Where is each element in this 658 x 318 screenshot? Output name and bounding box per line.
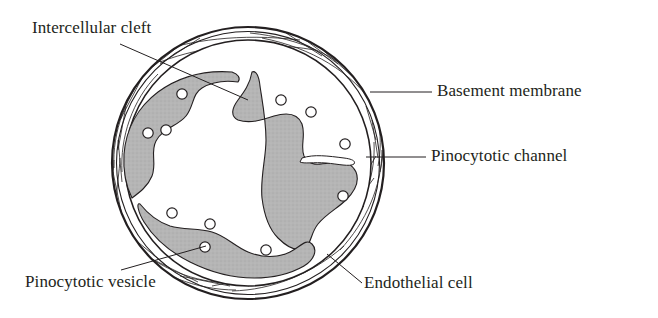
pinocytotic-vesicle: [276, 95, 286, 105]
pinocytotic-vesicle: [340, 139, 350, 149]
label-intercellular-cleft: Intercellular cleft: [32, 18, 151, 38]
capillary-diagram: Intercellular cleft Basement membrane Pi…: [0, 0, 658, 318]
pinocytotic-vesicle: [205, 219, 215, 229]
label-endothelial-cell: Endothelial cell: [364, 273, 473, 293]
label-pinocytotic-channel: Pinocytotic channel: [431, 146, 567, 166]
label-pinocytotic-vesicle: Pinocytotic vesicle: [25, 272, 156, 292]
label-basement-membrane: Basement membrane: [437, 81, 582, 101]
pinocytotic-vesicle: [338, 191, 348, 201]
pinocytotic-vesicle: [261, 245, 271, 255]
pinocytotic-vesicle: [306, 107, 316, 117]
pinocytotic-vesicle: [177, 89, 187, 99]
pinocytotic-vesicle: [161, 125, 171, 135]
pinocytotic-vesicle: [143, 128, 153, 138]
pinocytotic-vesicle: [167, 208, 177, 218]
